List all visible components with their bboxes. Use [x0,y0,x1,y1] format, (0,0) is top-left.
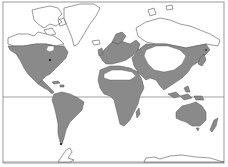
great-lakes-mark [49,59,51,61]
cape-horn-mark [60,143,62,145]
world-map [0,0,228,167]
kamchatka-mark [205,49,207,51]
